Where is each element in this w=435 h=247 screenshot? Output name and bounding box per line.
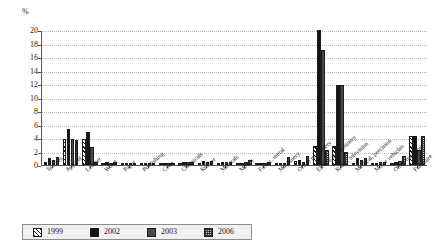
legend-swatch-icon xyxy=(204,228,213,237)
x-axis-label-cell: Minerals xyxy=(215,167,234,219)
x-axis-label-cell: Furniture xyxy=(408,167,427,219)
legend-label: 2003 xyxy=(161,228,177,236)
legend-swatch-icon xyxy=(90,228,99,237)
x-axis-label-cell: Rubber xyxy=(195,167,214,219)
legend-label: 1999 xyxy=(47,228,63,236)
x-axis-label-cell: Machinery xyxy=(273,167,292,219)
y-axis: 20181614121086420 xyxy=(8,0,38,247)
bar-group xyxy=(254,31,273,165)
x-axis-label-cell: Textiles xyxy=(41,167,60,219)
x-axis-label-cell: Fabric. metal xyxy=(253,167,272,219)
legend-swatch-icon xyxy=(33,228,42,237)
bar-group xyxy=(119,31,138,165)
y-axis-tick-label: 4 xyxy=(16,135,38,143)
bar-group xyxy=(61,31,80,165)
bar-group xyxy=(138,31,157,165)
legend-label: 2006 xyxy=(218,228,234,236)
bar xyxy=(67,129,70,165)
bar-groups xyxy=(42,31,427,165)
x-axis-label-cell: Medical, precision xyxy=(350,167,369,219)
legend-item-2003[interactable]: 2003 xyxy=(137,228,194,237)
bar-group xyxy=(235,31,254,165)
bar-group xyxy=(81,31,100,165)
bar xyxy=(63,139,66,165)
x-axis-label-cell: Leather xyxy=(80,167,99,219)
x-axis-label-cell: Radio, television xyxy=(330,167,349,219)
x-axis-label-cell: Coke xyxy=(157,167,176,219)
y-axis-tick-label: 14 xyxy=(16,68,38,76)
legend-item-2006[interactable]: 2006 xyxy=(194,228,251,237)
y-axis-tick-label: 6 xyxy=(16,122,38,130)
x-axis-label-cell: Apparel xyxy=(60,167,79,219)
x-axis-label-cell: Motor vehicles xyxy=(369,167,388,219)
x-axis-label-cell: Publishing xyxy=(137,167,156,219)
bar-group xyxy=(273,31,292,165)
legend-item-1999[interactable]: 1999 xyxy=(23,228,80,237)
legend-item-2002[interactable]: 2002 xyxy=(80,228,137,237)
y-axis-tick-label: 20 xyxy=(16,27,38,35)
bar-group xyxy=(42,31,61,165)
x-axis-labels: TextilesApparelLeatherWoodPaperPublishin… xyxy=(41,167,427,219)
x-axis-label-cell: Other transport xyxy=(388,167,407,219)
bar-group xyxy=(158,31,177,165)
x-axis-label-cell: Metals xyxy=(234,167,253,219)
bar-group xyxy=(292,31,311,165)
bar xyxy=(294,161,297,165)
chart-legend: 1999200220032006 xyxy=(22,224,252,240)
plot-area xyxy=(41,31,427,166)
legend-swatch-icon xyxy=(147,228,156,237)
bar xyxy=(275,163,278,165)
y-axis-tick-label: 8 xyxy=(16,108,38,116)
x-axis-label-cell: Paper xyxy=(118,167,137,219)
x-axis-label-cell: Chemicals xyxy=(176,167,195,219)
bar-group xyxy=(100,31,119,165)
bar xyxy=(352,163,355,165)
bar xyxy=(86,132,89,165)
y-axis-tick-label: 16 xyxy=(16,54,38,62)
y-axis-tick-label: 0 xyxy=(16,162,38,170)
y-axis-tick-label: 2 xyxy=(16,149,38,157)
chart-root: % 20181614121086420 TextilesApparelLeath… xyxy=(0,0,435,247)
bar xyxy=(82,139,85,165)
y-axis-tick-label: 10 xyxy=(16,95,38,103)
y-axis-tick-label: 18 xyxy=(16,41,38,49)
y-axis-tick-label: 12 xyxy=(16,81,38,89)
bar-group xyxy=(215,31,234,165)
x-axis-label-cell: Wood xyxy=(99,167,118,219)
bar-group xyxy=(177,31,196,165)
x-axis-label-cell: Office machinery xyxy=(292,167,311,219)
legend-label: 2002 xyxy=(104,228,120,236)
bar-group xyxy=(196,31,215,165)
x-axis-label-cell: Electrical machinery xyxy=(311,167,330,219)
